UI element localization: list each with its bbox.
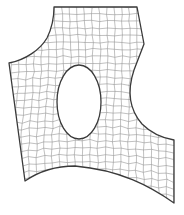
- mesh-line: [11, 20, 175, 22]
- mesh-lines: [6, 6, 175, 204]
- mesh-line: [7, 168, 174, 174]
- mesh-line: [143, 7, 145, 201]
- mesh-line: [12, 34, 174, 36]
- mesh-line: [6, 7, 12, 205]
- mesh-diagram: [0, 0, 184, 215]
- mesh-line: [7, 162, 175, 168]
- mesh-line: [59, 7, 64, 198]
- mesh-line: [28, 8, 34, 200]
- mesh-line: [158, 7, 160, 202]
- mesh-line: [10, 98, 174, 103]
- mesh-line: [11, 42, 173, 44]
- mesh-line: [74, 7, 79, 196]
- mesh-line: [105, 7, 108, 197]
- elliptical-hole: [57, 65, 101, 139]
- mesh-line: [8, 182, 174, 189]
- mesh-grid: [6, 6, 175, 204]
- mesh-line: [7, 111, 173, 116]
- mesh-line: [7, 175, 174, 183]
- mesh-line: [10, 84, 173, 88]
- mesh-line: [8, 189, 174, 196]
- mesh-line: [166, 8, 167, 202]
- mesh-line: [9, 196, 174, 205]
